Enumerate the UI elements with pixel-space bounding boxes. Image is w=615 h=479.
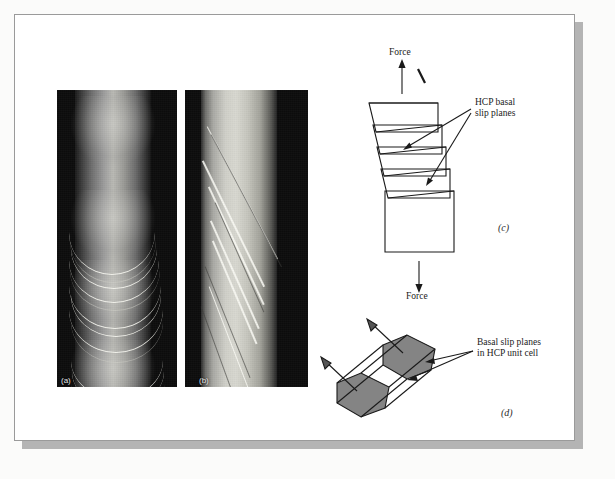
diagram-d-hcp-unit-cell: Basal slip planes in HCP unit cell: [345, 315, 575, 445]
stray-mark: [418, 69, 425, 83]
photomicrograph-a: (a): [57, 90, 177, 387]
highlight-band: [71, 96, 155, 166]
panel-label-d: (d): [501, 407, 513, 418]
panel-label-a: (a): [61, 376, 71, 385]
diagram-c-svg: [345, 37, 575, 297]
figure-root: (a) (b): [0, 0, 615, 479]
normal-arrow-bottom-head: [321, 357, 331, 369]
slip-plane-trace: [388, 191, 454, 198]
normal-arrow-top-head: [367, 319, 377, 331]
force-label-top: Force: [389, 47, 411, 58]
block-slab-4: [381, 169, 450, 198]
leader-line-top-plane: [429, 351, 473, 361]
photomicrograph-b: (b): [185, 90, 308, 387]
block-slab-2: [373, 125, 442, 154]
leader-arrowhead-upper: [403, 143, 412, 150]
panel-label-c: (c): [498, 222, 509, 233]
diagram-d-svg: [345, 315, 575, 445]
diagram-c-slipped-block: HCP basal slip planes Force Force: [345, 37, 575, 297]
force-label-bottom: Force: [406, 291, 428, 302]
hcp-basal-slip-planes-label: HCP basal slip planes: [475, 97, 515, 119]
basal-slip-planes-hcp-cell-label: Basal slip planes in HCP unit cell: [477, 337, 541, 359]
block-slab-5: [385, 191, 454, 252]
leader-arrowhead-lower: [426, 178, 433, 186]
slip-plane-trace: [380, 147, 446, 154]
slip-plane-trace: [384, 169, 450, 176]
panel-label-b: (b): [199, 376, 209, 385]
figure-page: (a) (b): [14, 14, 575, 441]
block-slab-1: [369, 103, 438, 132]
slip-plane-trace: [376, 125, 442, 132]
force-arrow-top-head: [398, 59, 405, 68]
